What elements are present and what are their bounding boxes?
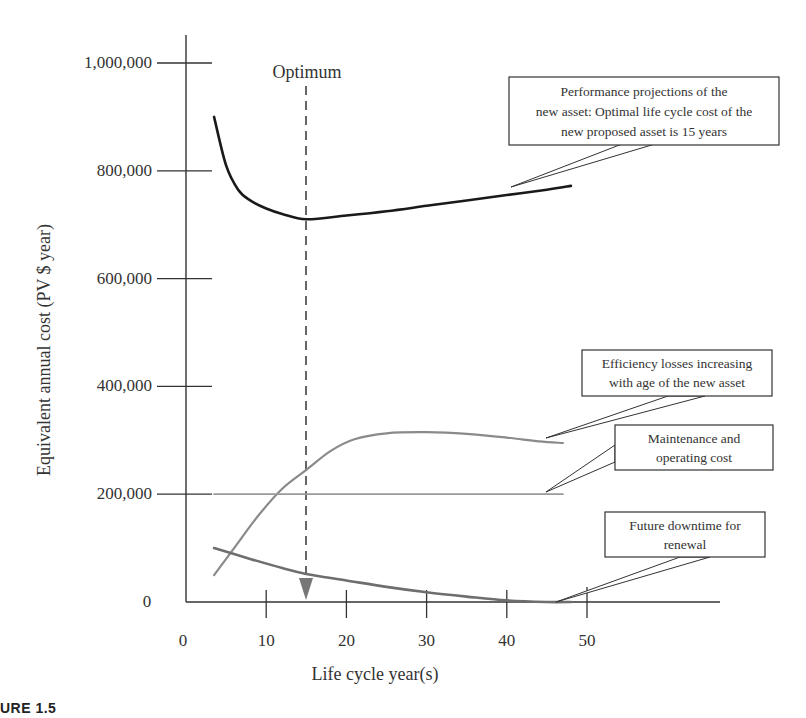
svg-text:renewal: renewal — [664, 537, 707, 552]
x-tick-label: 30 — [418, 631, 435, 650]
y-tick-label: 800,000 — [97, 161, 152, 180]
svg-text:Efficiency losses increasing: Efficiency losses increasing — [602, 356, 753, 371]
x-tick-label: 50 — [579, 631, 596, 650]
downtime-line — [214, 548, 571, 602]
x-tick-label: 10 — [258, 631, 275, 650]
x-tick-label: 40 — [498, 631, 515, 650]
efficiency-losses-line — [214, 432, 563, 575]
figure-label: URE 1.5 — [0, 700, 56, 716]
x-ticks: 01020304050 — [179, 587, 596, 650]
x-tick-label: 0 — [179, 631, 188, 650]
optimum-label: Optimum — [272, 62, 341, 82]
y-axis-title: Equivalent annual cost (PV $ year) — [34, 224, 55, 476]
series-lines — [214, 117, 571, 602]
svg-text:new asset: Optimal life cycle: new asset: Optimal life cycle cost of th… — [536, 104, 752, 119]
svg-text:with age of the new asset: with age of the new asset — [609, 375, 745, 390]
x-tick-label: 20 — [338, 631, 355, 650]
y-tick-label: 1,000,000 — [84, 53, 152, 72]
svg-text:operating cost: operating cost — [656, 450, 732, 465]
y-tick-label: 0 — [143, 592, 152, 611]
svg-text:Future downtime for: Future downtime for — [629, 518, 741, 533]
y-tick-label: 600,000 — [97, 269, 152, 288]
optimum-arrow-icon — [299, 578, 313, 600]
svg-text:new proposed asset is 15 years: new proposed asset is 15 years — [561, 124, 727, 139]
x-axis-title: Life cycle year(s) — [312, 664, 439, 685]
svg-text:Maintenance and: Maintenance and — [648, 431, 741, 446]
svg-text:Performance projections of the: Performance projections of the — [561, 84, 728, 99]
cost-chart: 0200,000400,000600,000800,0001,000,000 0… — [0, 0, 806, 718]
y-tick-label: 200,000 — [97, 484, 152, 503]
callout-total: Performance projections of the new asset… — [509, 77, 779, 187]
callout-maintenance: Maintenance and operating cost — [546, 425, 773, 492]
y-tick-label: 400,000 — [97, 376, 152, 395]
y-ticks: 0200,000400,000600,000800,0001,000,000 — [84, 53, 212, 611]
